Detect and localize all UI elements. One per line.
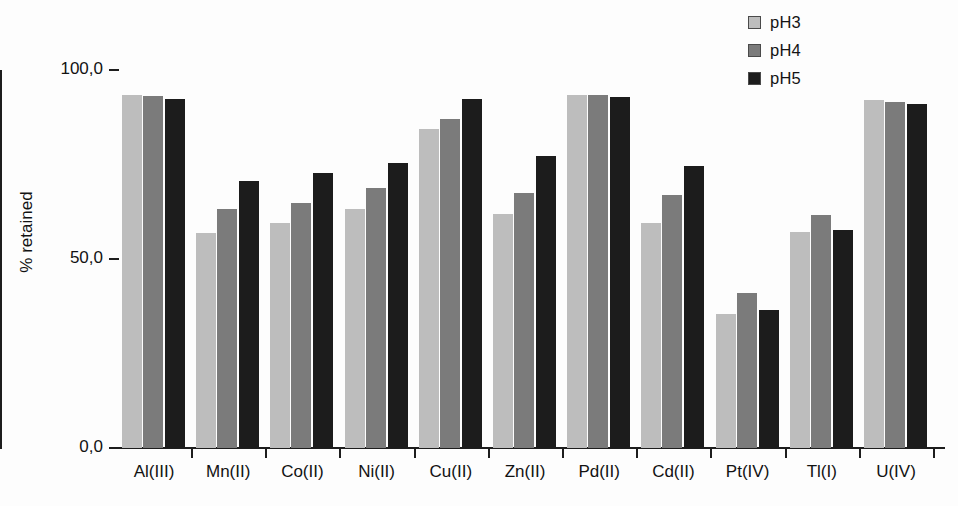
bar-group	[122, 70, 185, 448]
bar[interactable]	[239, 181, 259, 448]
bar[interactable]	[811, 215, 831, 448]
bar[interactable]	[716, 314, 736, 448]
bar[interactable]	[345, 209, 365, 448]
bar-group	[790, 70, 853, 448]
bar-group	[345, 70, 408, 448]
bar-group	[864, 70, 927, 448]
y-axis-title: % retained	[17, 147, 37, 317]
x-axis-tick	[265, 447, 267, 458]
bar-group	[196, 70, 259, 448]
bar[interactable]	[536, 156, 556, 448]
bar[interactable]	[759, 310, 779, 448]
legend-label: pH3	[770, 13, 801, 32]
legend-item[interactable]: pH3	[748, 8, 898, 36]
x-axis-tick	[933, 447, 935, 458]
bar[interactable]	[790, 232, 810, 448]
x-axis-tick	[636, 447, 638, 458]
x-axis-tick	[339, 447, 341, 458]
bar[interactable]	[684, 166, 704, 448]
bar-group	[716, 70, 779, 448]
x-axis-tick	[710, 447, 712, 458]
bar[interactable]	[122, 95, 142, 448]
legend-swatch-icon	[748, 16, 761, 29]
bar[interactable]	[833, 230, 853, 448]
bar[interactable]	[388, 163, 408, 448]
bar[interactable]	[588, 95, 608, 448]
bar[interactable]	[313, 173, 333, 448]
bar[interactable]	[440, 119, 460, 448]
y-axis-tick-label: 100,0	[60, 59, 103, 79]
bar-group	[641, 70, 704, 448]
bar[interactable]	[641, 223, 661, 448]
bar[interactable]	[610, 97, 630, 448]
bar[interactable]	[270, 223, 290, 448]
bar[interactable]	[907, 104, 927, 448]
x-axis-tick	[562, 447, 564, 458]
bar[interactable]	[885, 102, 905, 448]
y-axis-labels: 0,050,0100,0	[0, 0, 103, 506]
bar-group	[493, 70, 556, 448]
x-axis-tick	[785, 447, 787, 458]
bar-group	[419, 70, 482, 448]
bar[interactable]	[419, 129, 439, 448]
x-axis-tick	[414, 447, 416, 458]
y-axis-tick	[109, 447, 119, 449]
x-axis-tick	[191, 447, 193, 458]
bar[interactable]	[462, 99, 482, 448]
plot-area	[117, 70, 945, 448]
bar[interactable]	[493, 214, 513, 448]
y-axis-tick-label: 50,0	[70, 248, 103, 268]
bar-group	[567, 70, 630, 448]
bar[interactable]	[143, 96, 163, 448]
bar[interactable]	[196, 233, 216, 448]
bar[interactable]	[291, 203, 311, 448]
x-axis-tick	[859, 447, 861, 458]
bar-group	[270, 70, 333, 448]
y-axis-tick	[109, 258, 119, 260]
bar-chart: pH3pH4pH5 0,050,0100,0 % retained Al(III…	[0, 0, 958, 506]
bar[interactable]	[165, 99, 185, 448]
bar[interactable]	[662, 195, 682, 448]
y-axis-tick-label: 0,0	[79, 437, 103, 457]
bar[interactable]	[217, 209, 237, 448]
bar[interactable]	[567, 95, 587, 448]
bar[interactable]	[864, 100, 884, 448]
bar[interactable]	[514, 193, 534, 448]
x-axis-tick	[488, 447, 490, 458]
bar[interactable]	[737, 293, 757, 448]
x-axis-tick-label: U(IV)	[841, 462, 951, 482]
legend-swatch-icon	[748, 44, 761, 57]
y-axis-tick	[109, 69, 119, 71]
legend-label: pH4	[770, 41, 801, 60]
y-axis-line	[0, 70, 2, 449]
legend-item[interactable]: pH4	[748, 36, 898, 64]
bar[interactable]	[366, 188, 386, 448]
